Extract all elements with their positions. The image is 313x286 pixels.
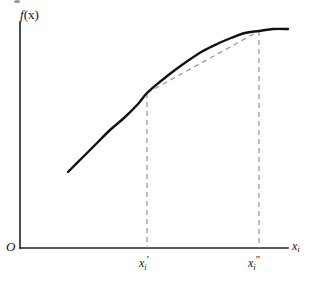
function-plot-figure: f(x) O xi xi′ xi″: [0, 0, 313, 286]
tick2-prime: ″: [256, 253, 261, 265]
tick-label-xi-double-prime: xi″: [248, 254, 260, 271]
origin-label: O: [6, 240, 15, 253]
plot-canvas: [0, 0, 313, 286]
dashed-secant-chord: [147, 31, 259, 93]
tick-label-xi-prime: xi′: [139, 254, 149, 271]
y-axis-label: f(x): [20, 8, 39, 21]
function-curve: [68, 29, 288, 172]
x-axis-label-subscript: i: [297, 244, 299, 254]
x-axis-label: xi: [292, 240, 300, 254]
y-axis-label-paren: (x): [24, 7, 39, 22]
tick1-prime: ′: [147, 253, 149, 265]
